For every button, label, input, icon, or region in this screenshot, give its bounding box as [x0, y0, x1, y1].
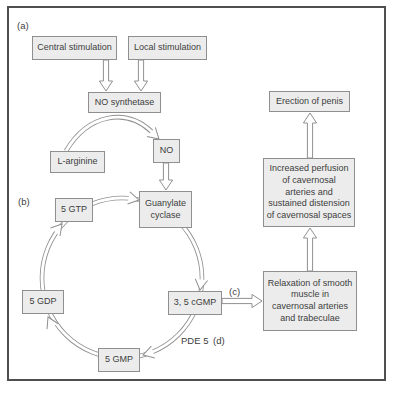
arrow-local-to-no-synthetase [134, 60, 147, 91]
node-increased-perfusion: Increased perfusion of cavernosal arteri… [263, 158, 355, 227]
node-no-synthetase: NO synthetase [88, 92, 161, 113]
pde5-enzyme-label: PDE 5 [181, 335, 208, 346]
arrow-cgmp-to-relaxation [222, 294, 262, 307]
arrow-relaxation-to-increased-perfusion [303, 228, 316, 271]
arrow-larginine-to-no [66, 117, 163, 151]
arrow-increased-perfusion-to-erection [303, 113, 316, 158]
node-3-5-cgmp: 3, 5 cGMP [168, 291, 222, 315]
arrowhead-guanylate-to-cgmp [194, 279, 208, 291]
node-erection-of-penis: Erection of penis [269, 91, 350, 112]
node-5-gdp: 5 GDP [22, 290, 64, 314]
panel-label-a: (a) [17, 20, 29, 31]
node-central-stimulation: Central stimulation [32, 36, 117, 60]
panel-label-d: (d) [213, 335, 225, 346]
figure-erection-physiology-diagram: Central stimulation Local stimulation NO… [0, 0, 394, 393]
arrow-central-to-no-synthetase [99, 60, 112, 91]
node-local-stimulation: Local stimulation [128, 36, 207, 60]
node-l-arginine: L-arginine [50, 151, 105, 173]
panel-label-c: (c) [229, 286, 240, 297]
node-nitric-oxide: NO [153, 139, 180, 163]
node-5-gmp: 5 GMP [98, 348, 140, 372]
panel-label-b: (b) [18, 196, 30, 207]
arrow-no-to-guanylate-cyclase [159, 163, 172, 190]
node-5-gtp: 5 GTP [55, 198, 93, 222]
node-relaxation-smooth-muscle: Relaxation of smooth muscle in cavernosa… [263, 271, 357, 331]
node-guanylate-cyclase: Guanylate cyclase [139, 191, 192, 228]
